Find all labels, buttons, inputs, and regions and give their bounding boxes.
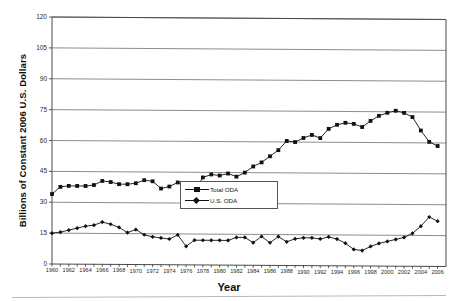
x-tick-label: 1964 [79, 267, 91, 273]
x-tick-label: 1972 [146, 268, 158, 274]
x-tick-label: 1976 [180, 268, 192, 274]
x-axis-tick-labels: 1960196219641966196819701972197419761978… [0, 266, 458, 278]
x-tick-label: 2004 [415, 269, 427, 275]
x-tick-label: 1982 [230, 268, 242, 274]
y-tick-label: 90 [25, 75, 47, 82]
legend-item-total-oda: Total ODA [184, 184, 274, 195]
diamond-marker-icon [184, 195, 210, 206]
x-tick-label: 1994 [331, 269, 343, 275]
x-tick-label: 1992 [314, 269, 326, 275]
x-tick-label: 1986 [264, 268, 276, 274]
legend-item-us-oda: U.S. ODA [184, 195, 274, 206]
x-tick-label: 1974 [163, 268, 175, 274]
x-tick-label: 1960 [46, 267, 58, 273]
x-tick-label: 1990 [297, 269, 309, 275]
x-tick-label: 1984 [247, 268, 259, 274]
square-marker-icon [184, 184, 210, 195]
x-tick-label: 1988 [280, 268, 292, 274]
legend-label-total-oda: Total ODA [210, 186, 238, 193]
x-tick-label: 1962 [63, 267, 75, 273]
x-tick-label: 2006 [431, 269, 443, 275]
y-tick-label: 120 [25, 13, 47, 20]
chart-legend: Total ODA U.S. ODA [180, 181, 278, 209]
x-axis-title: Year [0, 281, 458, 293]
x-tick-label: 1968 [113, 267, 125, 273]
y-tick-label: 45 [25, 167, 47, 174]
x-tick-label: 1978 [197, 268, 209, 274]
x-tick-label: 1996 [348, 269, 360, 275]
x-tick-label: 2002 [398, 269, 410, 275]
plot-area [0, 0, 458, 301]
x-tick-label: 2000 [381, 269, 393, 275]
y-tick-label: 105 [25, 44, 47, 51]
legend-label-us-oda: U.S. ODA [210, 197, 237, 204]
x-tick-label: 1980 [213, 268, 225, 274]
y-tick-label: 30 [25, 198, 47, 205]
y-tick-label: 60 [25, 137, 47, 144]
x-tick-label: 1966 [96, 267, 108, 273]
y-tick-label: 75 [25, 106, 47, 113]
chart-figure: Billions of Constant 2006 U.S. Dollars Y… [0, 0, 458, 301]
x-tick-label: 1970 [130, 268, 142, 274]
y-tick-label: 15 [25, 229, 47, 236]
x-tick-label: 1998 [364, 269, 376, 275]
